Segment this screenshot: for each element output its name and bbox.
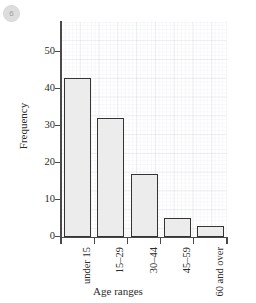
y-axis-tick [55,125,61,126]
x-axis-category-label: under 15 [82,247,93,284]
x-axis-title: Age ranges [0,286,236,297]
x-axis-tick [60,238,61,244]
y-axis-title: Frequency [18,103,29,149]
y-axis-tick [55,51,61,52]
y-axis-tick-label: 0 [9,231,55,242]
x-axis-tick [94,238,95,244]
bar-chart-figure: 01020304050 under 1515–2930–4445–5960 an… [0,0,256,303]
x-axis-tick [226,238,227,244]
y-axis-tick-label: 20 [9,157,55,168]
x-axis-tick [127,238,128,244]
x-axis-category-label: 30–44 [149,247,160,273]
y-axis-tick [55,162,61,163]
x-axis-tick [160,238,161,244]
bar [131,174,158,237]
x-axis-category-label: 45–59 [182,247,193,273]
y-axis-tick-label: 30 [9,120,55,131]
y-axis-tick-label: 10 [9,194,55,205]
y-axis-tick-label: 50 [9,46,55,57]
y-axis-tick-label: 40 [9,83,55,94]
x-axis-line [60,237,228,239]
y-axis-tick [55,199,61,200]
y-axis-line [60,21,62,238]
x-axis-category-label: 15–29 [115,247,126,273]
x-axis-tick [193,238,194,244]
bar [97,118,124,236]
bar [164,218,191,237]
bar [64,78,91,237]
y-axis-tick [55,88,61,89]
bar [197,226,224,237]
